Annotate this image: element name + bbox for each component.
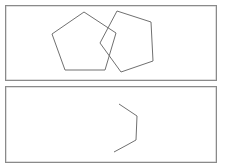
pentagon-right: [100, 11, 153, 72]
drawing-canvas: [0, 0, 225, 164]
partial-pentagon-stroke: [114, 104, 137, 152]
pentagon-left: [52, 12, 116, 70]
